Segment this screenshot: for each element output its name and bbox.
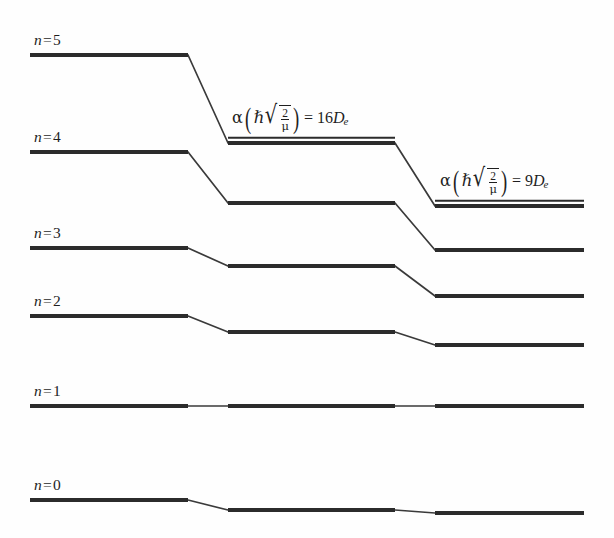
n-label-5: n=5 (34, 31, 61, 49)
equals-sign: = (42, 31, 53, 48)
alpha-symbol: α (232, 110, 243, 126)
radical-group: √ 2 μ (263, 104, 290, 133)
diagram-canvas (0, 0, 614, 538)
equals-sign: = (42, 476, 53, 493)
n-value: 5 (53, 31, 61, 48)
n-label-1: n=1 (34, 382, 61, 400)
column-label-morse9: α ( ℏ √ 2 μ ) = 9 D e (440, 167, 549, 196)
n-symbol: n (34, 31, 42, 48)
n-symbol: n (34, 128, 42, 145)
equals-sign: = (42, 292, 53, 309)
radical-sign: √ (265, 105, 277, 134)
connector-morse16-to-morse9-n0 (395, 510, 435, 513)
fraction-two-over-mu: 2 μ (279, 105, 290, 133)
connector-harmonic-to-morse16-n5 (188, 55, 228, 143)
equals-sign: = (42, 128, 53, 145)
connector-morse16-to-morse9-n5 (395, 143, 435, 206)
equals-sign: = (42, 382, 53, 399)
coefficient-value: 9 (525, 173, 533, 189)
right-paren: ) (293, 109, 299, 128)
energy-level-diagram: n=5 n=4 n=3 n=2 n=1 n=0 α ( ℏ √ 2 μ ) = … (0, 0, 614, 538)
connector-morse16-to-morse9-n4 (395, 203, 435, 250)
n-value: 1 (53, 382, 61, 399)
connector-harmonic-to-morse16-n0 (188, 500, 228, 510)
n-value: 4 (53, 128, 61, 145)
n-value: 2 (53, 292, 61, 309)
alpha-symbol: α (440, 173, 451, 189)
well-depth-subscript: e (543, 179, 548, 190)
connector-harmonic-to-morse16-n4 (188, 152, 228, 203)
n-symbol: n (34, 476, 42, 493)
connector-harmonic-to-morse16-n3 (188, 248, 228, 266)
fraction-denominator: μ (489, 182, 496, 195)
n-symbol: n (34, 224, 42, 241)
connector-morse16-to-morse9-n2 (395, 332, 435, 345)
n-label-3: n=3 (34, 224, 61, 242)
right-paren: ) (501, 172, 507, 191)
fraction-denominator: μ (281, 119, 288, 132)
n-label-2: n=2 (34, 292, 61, 310)
radical-sign: √ (473, 168, 485, 197)
equals-sign: = (42, 224, 53, 241)
n-symbol: n (34, 292, 42, 309)
connector-harmonic-to-morse16-n2 (188, 316, 228, 332)
fraction-two-over-mu: 2 μ (487, 168, 498, 196)
n-label-0: n=0 (34, 476, 61, 494)
coefficient-value: 16 (317, 110, 333, 126)
column-label-morse16: α ( ℏ √ 2 μ ) = 16 D e (232, 104, 349, 133)
radical-group: √ 2 μ (471, 167, 498, 196)
left-paren: ( (453, 172, 459, 191)
fraction-numerator: 2 (282, 107, 288, 119)
n-value: 3 (53, 224, 61, 241)
left-paren: ( (245, 109, 251, 128)
equals-sign: = (304, 110, 313, 126)
well-depth-subscript: e (343, 116, 348, 127)
n-value: 0 (53, 476, 61, 493)
n-symbol: n (34, 382, 42, 399)
fraction-numerator: 2 (490, 170, 496, 182)
connector-morse16-to-morse9-n3 (395, 266, 435, 296)
n-label-4: n=4 (34, 128, 61, 146)
equals-sign: = (512, 173, 521, 189)
